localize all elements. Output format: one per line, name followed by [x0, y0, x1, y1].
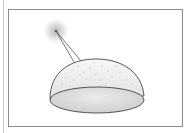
dome-opening — [50, 87, 144, 113]
dome-diagram — [0, 0, 188, 133]
